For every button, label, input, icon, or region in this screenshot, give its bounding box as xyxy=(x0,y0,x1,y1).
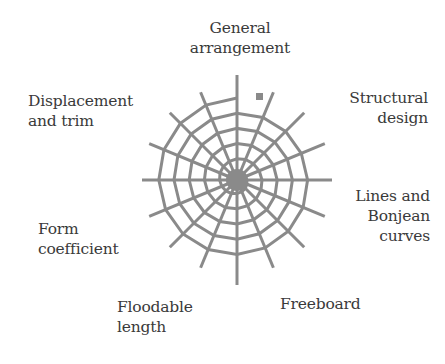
label-line: Form xyxy=(38,219,158,239)
label-line: Structural xyxy=(318,88,428,108)
label-line: Freeboard xyxy=(280,294,400,314)
label-structural-design: Structural design xyxy=(318,88,428,128)
label-line: length xyxy=(117,317,237,337)
label-line: Lines and xyxy=(330,186,430,206)
label-line: and trim xyxy=(28,111,168,131)
label-line: arrangement xyxy=(170,38,310,58)
label-lines-and-bonjean-curves: Lines and Bonjean curves xyxy=(330,186,430,246)
spiral-end-marker xyxy=(256,93,263,100)
label-line: Bonjean xyxy=(330,206,430,226)
label-form-coefficient: Form coefficient xyxy=(38,219,158,259)
label-line: design xyxy=(318,108,428,128)
label-floodable-length: Floodable length xyxy=(117,297,237,337)
label-displacement-and-trim: Displacement and trim xyxy=(28,91,168,131)
label-line: General xyxy=(170,18,310,38)
design-spiral-diagram: General arrangement Structural design Li… xyxy=(0,0,445,364)
label-line: curves xyxy=(330,226,430,246)
label-line: coefficient xyxy=(38,239,158,259)
label-line: Floodable xyxy=(117,297,237,317)
label-line: Displacement xyxy=(28,91,168,111)
label-general-arrangement: General arrangement xyxy=(170,18,310,58)
label-freeboard: Freeboard xyxy=(280,294,400,314)
spiral-center xyxy=(226,169,248,191)
